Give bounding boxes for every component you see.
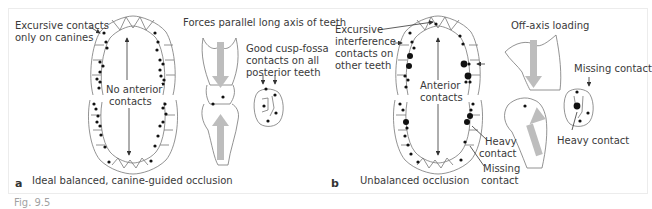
label-heavy-contact: Heavy contact [557,135,629,147]
label-no-anterior-2: contacts [109,96,152,108]
label-missing-contact: Missing contact [574,63,652,75]
label-excursive-b-2: interference [335,36,396,48]
panel-letter-a: a [15,177,22,190]
label-good-2: contacts on all [246,55,319,67]
force-arrow-down-shaft [217,42,224,78]
label-off-axis: Off-axis loading [511,20,589,32]
label-missing-1: Missing [483,163,520,175]
label-heavy-2: contact [479,148,516,160]
panel-letter-b: b [331,177,339,190]
label-anterior-1: Anterior [420,80,460,92]
contact-dots-occlusal-a [262,87,277,122]
label-excursive-b-4: other teeth [335,60,391,72]
label-forces-parallel: Forces parallel long axis of teeth [183,17,346,29]
force-arrow-down-head [212,76,229,88]
label-excursive-a-2: only on canines [15,32,93,44]
force-arrow-up-head [212,114,229,126]
label-no-anterior-1: No anterior [106,84,162,96]
label-heavy-1: Heavy [485,136,517,148]
label-anterior-2: contacts [420,92,463,104]
figure-caption: Fig. 9.5 [14,197,634,209]
label-missing-2: contact [481,175,518,187]
panel-title-b: Unbalanced occlusion [360,175,469,187]
label-excursive-b-1: Excursive [335,24,383,36]
label-excursive-b-3: contacts on [335,48,393,60]
label-excursive-a-1: Excursive contacts [15,20,109,32]
force-arrow-up-shaft [217,124,224,160]
label-good-3: posterior teeth [246,67,321,79]
panel-title-a: Ideal balanced, canine-guided occlusion [32,175,233,187]
label-good-1: Good cusp-fossa [246,43,329,55]
arrow-excursive-b [378,22,433,30]
